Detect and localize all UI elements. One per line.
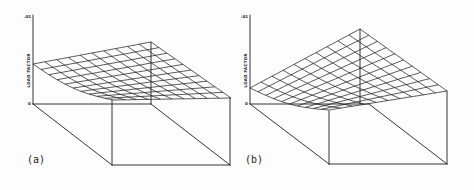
panel-a-axis-label: LOAD FACTOR <box>26 53 31 87</box>
panel-b-axis-label: LOAD FACTOR <box>243 53 248 87</box>
mesh-line <box>360 29 447 91</box>
mid-base-edge <box>369 104 447 164</box>
panel-a-top-tick: .01 <box>24 14 31 19</box>
figure: .01 0 LOAD FACTOR (a) .01 0 LOAD FACTOR … <box>0 0 474 190</box>
panel-b-surface-mesh <box>250 29 447 110</box>
mesh-line <box>113 98 231 100</box>
mid-base-edge <box>151 104 230 165</box>
panel-b-bottom-tick: 0 <box>245 101 248 106</box>
mesh-line <box>338 41 423 95</box>
panel-a-label: (a) <box>27 154 45 165</box>
mesh-line <box>327 47 412 97</box>
surface-plots: .01 0 LOAD FACTOR (a) .01 0 LOAD FACTOR … <box>0 0 474 190</box>
panel-b-label: (b) <box>245 154 263 165</box>
mesh-line <box>151 42 231 98</box>
panel-b: .01 0 LOAD FACTOR (b) <box>241 14 447 165</box>
mesh-line <box>305 59 388 101</box>
panel-b-box-frame <box>250 29 447 164</box>
mesh-line <box>329 91 447 110</box>
mesh-line <box>349 35 435 93</box>
panel-b-top-tick: .01 <box>241 14 248 19</box>
panel-a-box-frame <box>33 42 230 165</box>
mesh-line <box>305 72 421 107</box>
panel-a-bottom-tick: 0 <box>28 101 31 106</box>
panel-a-surface-mesh <box>33 42 231 100</box>
panel-a: .01 0 LOAD FACTOR (a) <box>24 14 231 165</box>
